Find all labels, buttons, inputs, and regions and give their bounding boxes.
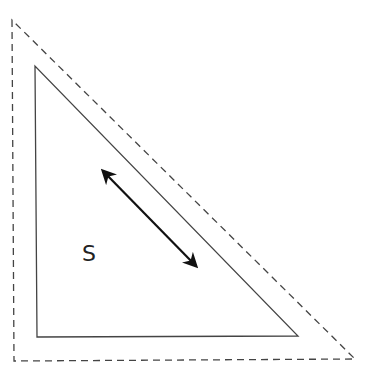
double-arrow	[103, 171, 196, 266]
diagram-canvas: S	[0, 0, 380, 386]
label-s: S	[82, 241, 96, 266]
inner-triangle	[35, 66, 298, 337]
outer-dashed-triangle	[12, 20, 355, 361]
